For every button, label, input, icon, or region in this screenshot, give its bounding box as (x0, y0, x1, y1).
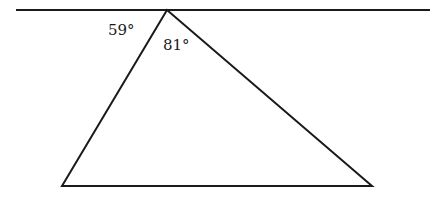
apex-angle-label: 81° (163, 36, 190, 54)
outer-angle-label: 59° (108, 21, 135, 39)
triangle-diagram: 59° 81° (0, 0, 430, 204)
